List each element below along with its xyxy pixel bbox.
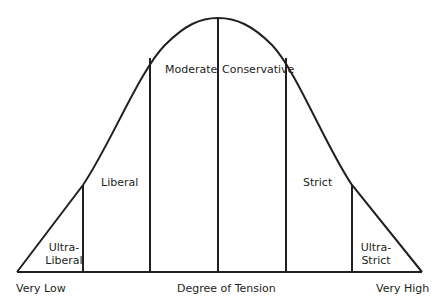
segment-liberal-label: Liberal (101, 176, 138, 189)
segment-ultra-liberal-label: Ultra- Liberal (44, 241, 84, 267)
segment-ultra-strict-line1: Ultra- (358, 241, 394, 254)
x-axis-title: Degree of Tension (177, 282, 276, 295)
segment-ultra-liberal-line2: Liberal (44, 254, 84, 267)
segment-conservative-label: Conservative (222, 63, 294, 76)
x-axis-low-label: Very Low (16, 282, 66, 295)
segment-ultra-strict-line2: Strict (358, 254, 394, 267)
bell-curve (17, 18, 422, 272)
segment-strict-label: Strict (303, 176, 332, 189)
segment-ultra-strict-label: Ultra- Strict (358, 241, 394, 267)
segment-moderate-label: Moderate (165, 63, 217, 76)
x-axis-high-label: Very High (376, 282, 429, 295)
segment-ultra-liberal-line1: Ultra- (44, 241, 84, 254)
